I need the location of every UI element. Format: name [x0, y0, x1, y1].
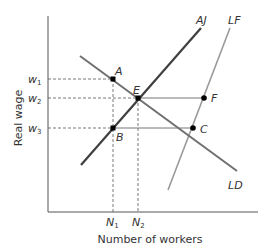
curve-ld-label: LD	[228, 179, 243, 192]
tick-w3: w3	[28, 122, 41, 136]
curve-lf	[168, 28, 230, 190]
point-b-marker	[111, 126, 116, 131]
curve-aj	[81, 28, 201, 165]
point-f-label: F	[211, 92, 218, 105]
curve-lf-label: LF	[228, 14, 241, 27]
point-e-label: E	[133, 84, 140, 97]
point-b-label: B	[116, 131, 124, 144]
y-axis-title: Real wage	[12, 89, 25, 146]
tick-w1: w1	[28, 73, 41, 87]
tick-n1: N1	[106, 216, 119, 230]
point-f-marker	[201, 95, 207, 101]
point-a-label: A	[114, 65, 123, 78]
point-c-marker	[190, 125, 196, 131]
x-axis-title: Number of workers	[97, 233, 202, 246]
points	[111, 77, 207, 131]
labor-market-diagram: AJ LF LD A E B F C w1 w2 w3 N1 N2 Real w…	[0, 0, 269, 251]
tick-w2: w2	[28, 92, 41, 106]
curve-aj-label: AJ	[195, 14, 207, 27]
point-c-label: C	[200, 123, 208, 136]
tick-n2: N2	[132, 216, 145, 230]
guide-lines	[48, 79, 138, 212]
